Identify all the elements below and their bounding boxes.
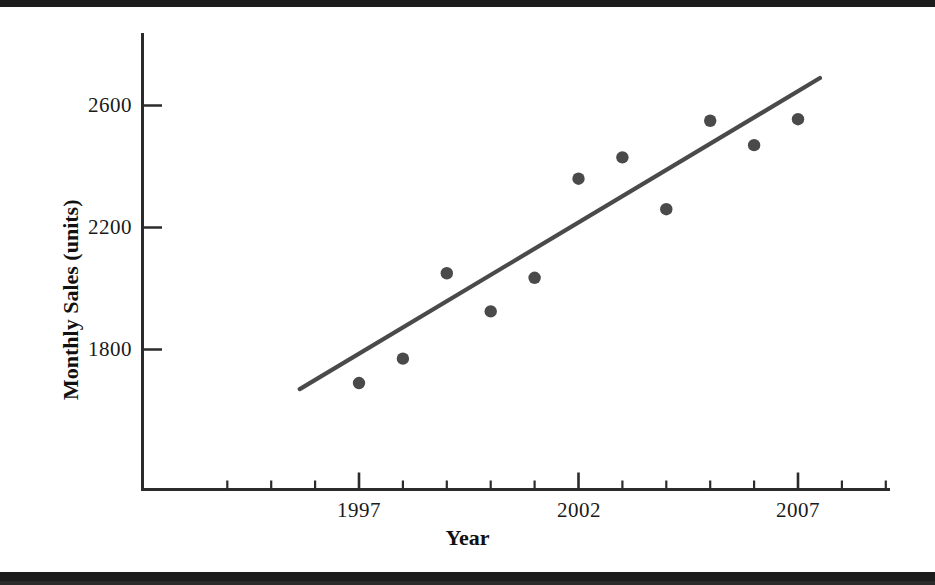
data-point — [528, 272, 540, 284]
y-axis-title: Monthly Sales (units) — [58, 200, 84, 400]
y-tick-label-1800: 1800 — [40, 337, 132, 362]
data-point — [660, 203, 672, 215]
x-axis-title: Year — [0, 525, 935, 551]
data-point — [704, 115, 716, 127]
chart-page: 2600 2200 1800 1997 2002 2007 Year Month… — [0, 0, 935, 585]
data-point — [792, 113, 804, 125]
y-tick-label-2200: 2200 — [40, 215, 132, 240]
data-point — [441, 267, 453, 279]
data-point — [748, 139, 760, 151]
data-point — [616, 151, 628, 163]
data-point — [397, 352, 409, 364]
data-point — [485, 305, 497, 317]
x-tick-label-1997: 1997 — [337, 498, 381, 523]
x-tick-label-2007: 2007 — [776, 498, 820, 523]
x-tick-label-2002: 2002 — [557, 498, 601, 523]
x-axis-ticks — [227, 473, 886, 490]
data-point — [572, 173, 584, 185]
data-point — [353, 377, 365, 389]
data-point-group — [353, 113, 804, 389]
y-tick-label-2600: 2600 — [40, 93, 132, 118]
trend-line — [300, 78, 820, 389]
y-axis-ticks — [143, 106, 163, 350]
